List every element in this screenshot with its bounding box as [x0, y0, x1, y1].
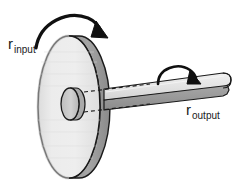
- diagram-canvas: [0, 0, 235, 188]
- label-r-output-base: r: [186, 101, 191, 118]
- label-r-input: rinput: [8, 36, 35, 52]
- label-r-output-subscript: output: [192, 110, 220, 121]
- label-r-input-subscript: input: [14, 44, 36, 55]
- label-r-input-base: r: [8, 35, 13, 52]
- wheel-hub: [61, 88, 85, 120]
- input-arrow-head: [91, 21, 108, 38]
- wheel-and-axle-diagram: rinput routput: [0, 0, 235, 188]
- hub-front-ellipse: [61, 88, 79, 120]
- label-r-output: routput: [186, 102, 219, 118]
